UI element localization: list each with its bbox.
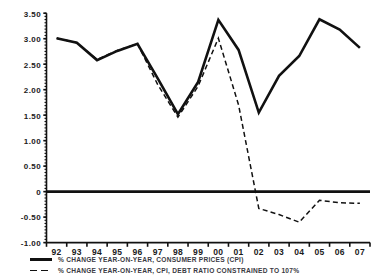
y-tick-label: 1.00 [24, 137, 41, 146]
chart-legend: % CHANGE YEAR-ON-YEAR, CONSUMER PRICES (… [0, 254, 382, 276]
y-tick-label: 2.50 [24, 61, 41, 70]
y-tick-label: 3.00 [24, 35, 41, 44]
y-tick-label: 3.50 [24, 10, 41, 19]
legend-item-cpi-debt-constrained: % CHANGE YEAR-ON-YEAR, CPI, DEBT RATIO C… [0, 265, 382, 276]
series-line-cpi-debt-constrained [57, 38, 360, 222]
line-chart-plot: 3.50 3.00 2.50 2.00 1.50 1.00 0.50 0 -0.… [0, 0, 382, 278]
series-line-cpi [57, 19, 360, 114]
legend-label-cpi: % CHANGE YEAR-ON-YEAR, CONSUMER PRICES (… [52, 254, 244, 265]
y-tick-label: 0.50 [24, 162, 41, 171]
chart-container: 3.50 3.00 2.50 2.00 1.50 1.00 0.50 0 -0.… [0, 0, 382, 278]
legend-item-cpi: % CHANGE YEAR-ON-YEAR, CONSUMER PRICES (… [0, 254, 382, 265]
y-tick-label: 0 [36, 188, 41, 197]
y-tick-label: -1.00 [21, 239, 41, 248]
legend-swatch-solid-icon [30, 254, 52, 265]
y-axis [43, 13, 46, 242]
y-tick-label: 1.50 [24, 112, 41, 121]
y-tick-label: 2.00 [24, 86, 41, 95]
legend-label-cpi-debt-constrained: % CHANGE YEAR-ON-YEAR, CPI, DEBT RATIO C… [52, 265, 299, 276]
legend-swatch-dashed-icon [30, 265, 52, 276]
y-axis-tick-labels: 3.50 3.00 2.50 2.00 1.50 1.00 0.50 0 -0.… [21, 10, 41, 248]
y-tick-label: -0.50 [21, 213, 41, 222]
